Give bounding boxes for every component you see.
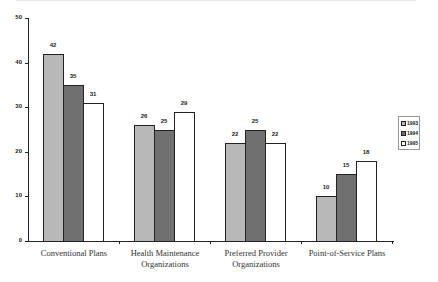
value-label: 10 xyxy=(316,184,336,190)
x-tick xyxy=(119,241,120,244)
y-axis xyxy=(28,18,29,241)
legend-label: 1993 xyxy=(407,120,418,126)
category-label: Preferred Provider Organizations xyxy=(211,248,301,269)
value-label: 25 xyxy=(245,118,265,124)
y-tick-label: 40 xyxy=(2,59,22,65)
value-label: 31 xyxy=(83,91,103,97)
category-label: Health Maintenance Organizations xyxy=(120,248,210,269)
bar-1995 xyxy=(265,143,286,242)
legend-swatch xyxy=(401,131,406,136)
bar-1994 xyxy=(336,174,357,242)
y-tick-label: 10 xyxy=(2,192,22,198)
bar-1995 xyxy=(83,103,104,242)
y-tick xyxy=(25,18,28,19)
legend-swatch xyxy=(401,121,406,126)
x-tick xyxy=(301,241,302,244)
legend-label: 1995 xyxy=(407,140,418,146)
y-tick xyxy=(25,63,28,64)
value-label: 25 xyxy=(154,118,174,124)
category-label: Point-of-Service Plans xyxy=(302,248,392,259)
value-label: 26 xyxy=(134,113,154,119)
value-label: 42 xyxy=(43,42,63,48)
value-label: 29 xyxy=(174,100,194,106)
category-label: Conventional Plans xyxy=(29,248,119,259)
x-tick xyxy=(210,241,211,244)
bar-1995 xyxy=(356,161,377,242)
bar-1993 xyxy=(134,125,155,242)
legend-item-1993: 1993 xyxy=(401,119,418,127)
value-label: 22 xyxy=(265,131,285,137)
bar-1993 xyxy=(225,143,246,242)
y-tick xyxy=(25,241,28,242)
legend-item-1994: 1994 xyxy=(401,129,418,137)
bar-1994 xyxy=(154,130,175,243)
legend: 1993 1994 1995 xyxy=(398,116,420,150)
bar-1993 xyxy=(43,54,64,242)
top-border xyxy=(16,0,416,1)
legend-item-1995: 1995 xyxy=(401,139,418,147)
value-label: 15 xyxy=(336,162,356,168)
bar-1994 xyxy=(245,130,266,243)
y-tick-label: 50 xyxy=(2,14,22,20)
y-tick xyxy=(25,196,28,197)
y-tick xyxy=(25,107,28,108)
y-tick-label: 30 xyxy=(2,103,22,109)
y-tick-label: 0 xyxy=(2,237,22,243)
y-tick xyxy=(25,152,28,153)
y-tick-label: 20 xyxy=(2,148,22,154)
value-label: 22 xyxy=(225,131,245,137)
legend-swatch xyxy=(401,141,406,146)
bar-1995 xyxy=(174,112,195,242)
legend-label: 1994 xyxy=(407,130,418,136)
x-tick xyxy=(392,241,393,244)
value-label: 18 xyxy=(356,149,376,155)
value-label: 35 xyxy=(63,73,83,79)
bar-1993 xyxy=(316,196,337,242)
bar-1994 xyxy=(63,85,84,242)
